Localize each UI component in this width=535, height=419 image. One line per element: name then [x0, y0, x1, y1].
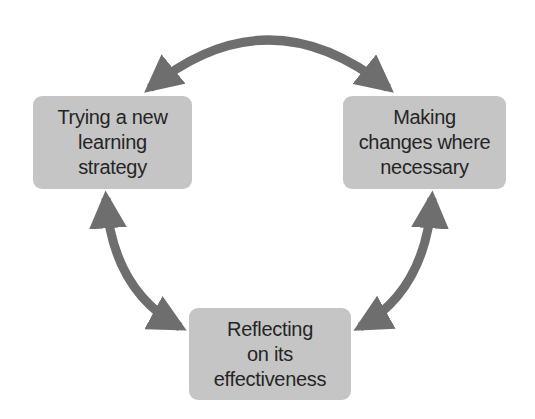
- node-label-line: Making: [393, 105, 456, 130]
- node-label-line: on its: [247, 342, 293, 367]
- node-label-line: learning: [78, 130, 147, 155]
- node-reflecting: Reflecting on its effectiveness: [189, 308, 351, 400]
- node-label-line: changes where: [359, 130, 491, 155]
- node-label-line: Trying a new: [57, 105, 167, 130]
- arrow-trying-making: [150, 40, 388, 88]
- node-making-changes: Making changes where necessary: [343, 96, 506, 189]
- node-label-line: strategy: [78, 155, 147, 180]
- arrow-making-reflecting: [360, 198, 432, 327]
- arrow-trying-reflecting: [106, 198, 180, 327]
- node-label-line: necessary: [380, 155, 468, 180]
- node-label-line: Reflecting: [227, 317, 313, 342]
- node-trying-new-strategy: Trying a new learning strategy: [33, 96, 192, 189]
- node-label-line: effectiveness: [214, 367, 326, 392]
